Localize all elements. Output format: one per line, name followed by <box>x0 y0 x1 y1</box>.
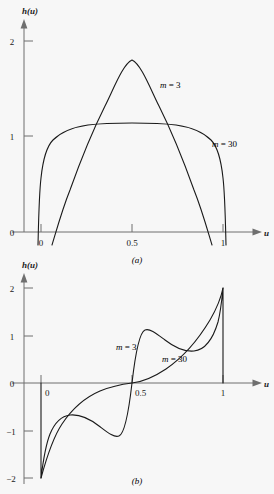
panel-a-xtick-05: 0.5 <box>126 238 138 248</box>
panel-b-ytick-0: 0 <box>10 379 15 389</box>
panel-b-ytick-2: 2 <box>10 284 15 294</box>
panel-a-y-ticks <box>24 41 33 136</box>
panel-b-y-axis <box>21 273 28 484</box>
panel-a-ytick-1: 1 <box>10 132 15 142</box>
panel-a-xtick-1: 1 <box>221 238 226 248</box>
panel-a-x-ticks <box>41 224 223 232</box>
panel-a-ytick-0: 0 <box>10 228 15 238</box>
panel-b-label-m3-value: 3 <box>132 342 137 352</box>
panel-b-label-m3: m = 3 <box>116 342 137 352</box>
panel-a-ytick-2: 2 <box>10 37 15 47</box>
panel-a-xtick-0: 0 <box>39 238 44 248</box>
panel-a-y-axis-label: h(u) <box>22 6 38 16</box>
x-axis-arrowhead <box>253 380 263 387</box>
panel-b-xtick-1: 1 <box>221 388 226 398</box>
panel-b-label-m30: m = 30 <box>162 354 187 364</box>
panel-b-caption: (b) <box>132 476 143 486</box>
y-axis-arrowhead <box>21 19 28 29</box>
panel-b-xtick-0: 0 <box>45 388 50 398</box>
panel-a-curve-m3 <box>52 60 212 245</box>
y-axis-arrowhead <box>21 273 28 283</box>
panel-b-x-axis <box>12 380 262 387</box>
panel-b-x-axis-label: u <box>264 379 269 389</box>
panel-a-x-axis-label: u <box>264 228 269 238</box>
panel-b-ytick-neg1: −1 <box>6 427 16 437</box>
panel-a-label-m3-value: 3 <box>176 80 181 90</box>
panel-b-label-m30-eq: = <box>169 354 179 364</box>
panel-a-y-axis <box>21 19 28 232</box>
figure-two-panel-plots: h(u) u 0 1 2 0 0.5 1 (a) m = 3 m = 30 <box>0 0 274 494</box>
panel-b-label-m30-value: 30 <box>178 354 187 364</box>
panel-a-chart: h(u) u 0 1 2 0 0.5 1 <box>0 0 274 258</box>
panel-a-x-axis <box>12 229 262 236</box>
panel-b-caption-wrap: (b) <box>0 470 274 488</box>
panel-a-label-m3-eq: = <box>167 80 177 90</box>
panel-a-label-m30-eq: = <box>219 139 229 149</box>
panel-a-label-m30: m = 30 <box>212 139 237 149</box>
panel-b-y-axis-label: h(u) <box>22 260 38 270</box>
x-axis-arrowhead <box>253 229 263 236</box>
panel-b-label-m3-eq: = <box>123 342 133 352</box>
panel-b-ytick-1: 1 <box>10 332 15 342</box>
panel-b-chart: h(u) u 2 1 0 −1 −2 0 0.5 1 <box>0 258 274 494</box>
panel-a-label-m30-value: 30 <box>228 139 237 149</box>
panel-b-xtick-05: 0.5 <box>135 388 147 398</box>
panel-a-label-m3: m = 3 <box>160 80 181 90</box>
